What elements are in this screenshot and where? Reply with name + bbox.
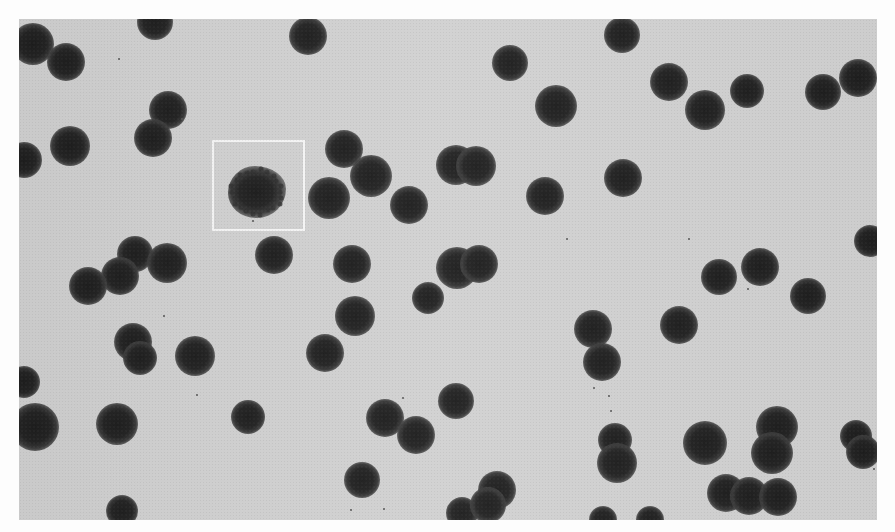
cell <box>50 126 90 166</box>
cell <box>535 85 577 127</box>
cell <box>96 403 138 445</box>
cell <box>19 403 59 451</box>
cell <box>597 443 637 483</box>
cell <box>759 478 797 516</box>
cell <box>839 59 877 97</box>
cell <box>730 74 764 108</box>
speck <box>610 410 612 412</box>
cell <box>456 146 496 186</box>
cell <box>589 506 617 520</box>
speck <box>181 118 183 120</box>
cell <box>636 506 664 520</box>
cell <box>854 225 877 257</box>
cell <box>460 245 498 283</box>
speck <box>383 508 385 510</box>
cell <box>335 296 375 336</box>
speck <box>593 387 595 389</box>
cell <box>492 45 528 81</box>
cell <box>231 400 265 434</box>
cell <box>790 278 826 314</box>
speck <box>566 238 568 240</box>
micrograph-photo <box>19 19 877 520</box>
cell <box>289 19 327 55</box>
speck <box>402 397 404 399</box>
cell <box>350 155 392 197</box>
cell <box>123 341 157 375</box>
cell <box>47 43 85 81</box>
cell <box>106 495 138 520</box>
cell <box>390 186 428 224</box>
speck <box>118 58 120 60</box>
cell <box>846 435 877 469</box>
speck <box>196 394 198 396</box>
cell <box>333 245 371 283</box>
speck <box>747 288 749 290</box>
cell <box>308 177 350 219</box>
speck <box>350 509 352 511</box>
cell <box>134 119 172 157</box>
cell <box>604 159 642 197</box>
cell <box>470 487 506 520</box>
speck <box>873 468 875 470</box>
cell <box>526 177 564 215</box>
cell <box>19 366 40 398</box>
highlight-box <box>212 140 305 231</box>
speck <box>252 220 254 222</box>
cell <box>685 90 725 130</box>
cell <box>650 63 688 101</box>
cell <box>701 259 737 295</box>
cell <box>604 19 640 53</box>
cell <box>660 306 698 344</box>
cell <box>412 282 444 314</box>
cell <box>741 248 779 286</box>
cell <box>683 421 727 465</box>
cell <box>805 74 841 110</box>
cell <box>255 236 293 274</box>
cell <box>751 432 793 474</box>
cell <box>19 142 42 178</box>
speck <box>608 395 610 397</box>
cell <box>344 462 380 498</box>
cell <box>69 267 107 305</box>
cell <box>147 243 187 283</box>
cell <box>306 334 344 372</box>
cell <box>137 19 173 40</box>
speck <box>688 238 690 240</box>
cell <box>438 383 474 419</box>
cell <box>583 343 621 381</box>
cell <box>574 310 612 348</box>
speck <box>163 315 165 317</box>
cell <box>175 336 215 376</box>
cell <box>397 416 435 454</box>
